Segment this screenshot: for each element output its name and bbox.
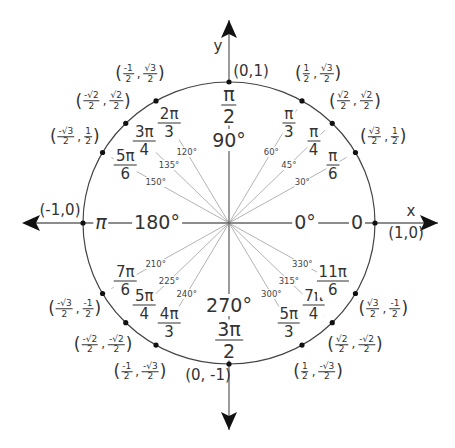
coord-label-210: (-√32,-12) bbox=[48, 299, 101, 319]
degree-180: 180° bbox=[132, 211, 182, 233]
radian-label-150: 5π6 bbox=[114, 149, 137, 182]
radian-label-300: 5π3 bbox=[278, 307, 301, 340]
degree-label-135: 135° bbox=[159, 160, 179, 170]
coord-270deg: (0, -1) bbox=[185, 366, 231, 384]
coord-label-300: (12,-√32) bbox=[293, 362, 343, 382]
point-240deg bbox=[153, 343, 158, 348]
point-300deg bbox=[299, 343, 304, 348]
coord-label-135: (-√22,√22) bbox=[75, 92, 130, 112]
coord-label-45: (√22,√22) bbox=[329, 92, 381, 112]
degree-label-300: 300° bbox=[261, 289, 281, 299]
degree-label-210: 210° bbox=[145, 259, 165, 269]
radian-pi-over-2: π 2 bbox=[221, 85, 236, 126]
degree-label-150: 150° bbox=[145, 177, 165, 187]
degree-90: 90° bbox=[210, 129, 248, 151]
coord-label-315: (√22,-√22) bbox=[327, 335, 382, 355]
coord-90deg: (0,1) bbox=[233, 62, 269, 80]
point-0deg bbox=[372, 220, 377, 225]
radian-label-225: 5π4 bbox=[133, 288, 156, 321]
coord-label-120: (-12,√32) bbox=[115, 64, 165, 84]
point-45deg bbox=[330, 121, 335, 126]
radian-pi: π bbox=[93, 211, 108, 233]
point-180deg bbox=[80, 220, 85, 225]
point-60deg bbox=[299, 98, 304, 103]
unit-circle-diagram: x y (1,0) (0,1) (-1,0) (0, -1) 0° 90° 18… bbox=[0, 0, 455, 448]
degree-0: 0° bbox=[292, 211, 318, 233]
degree-label-315: 315° bbox=[279, 276, 299, 286]
degree-label-45: 45° bbox=[281, 160, 296, 170]
coord-180deg: (-1,0) bbox=[40, 201, 81, 219]
degree-label-60: 60° bbox=[264, 147, 279, 157]
point-135deg bbox=[123, 121, 128, 126]
radian-label-240: 4π3 bbox=[158, 307, 181, 340]
y-axis-label: y bbox=[214, 37, 223, 55]
degree-label-120: 120° bbox=[176, 147, 196, 157]
point-330deg bbox=[353, 291, 358, 296]
point-225deg bbox=[123, 320, 128, 325]
degree-label-240: 240° bbox=[176, 289, 196, 299]
point-30deg bbox=[353, 150, 358, 155]
point-150deg bbox=[100, 150, 105, 155]
radian-label-45: π4 bbox=[307, 125, 320, 158]
coord-label-30: (√32,12) bbox=[360, 127, 406, 147]
coord-label-240: (-12,-√32) bbox=[114, 362, 167, 382]
radian-label-120: 2π3 bbox=[158, 106, 181, 139]
point-315deg bbox=[330, 320, 335, 325]
radian-0: 0 bbox=[349, 211, 365, 233]
coord-label-150: (-√32,12) bbox=[50, 127, 100, 147]
radian-3pi-over-2: 3π 2 bbox=[215, 320, 243, 361]
degree-270: 270° bbox=[204, 294, 254, 316]
x-axis-label: x bbox=[407, 202, 416, 220]
degree-label-30: 30° bbox=[295, 177, 310, 187]
point-210deg bbox=[100, 291, 105, 296]
coord-0deg: (1,0) bbox=[388, 224, 424, 242]
radian-label-30: π6 bbox=[326, 149, 339, 182]
coord-label-60: (12,√32) bbox=[295, 64, 341, 84]
point-120deg bbox=[153, 98, 158, 103]
degree-label-330: 330° bbox=[292, 259, 312, 269]
coord-label-330: (√32,-12) bbox=[358, 299, 408, 319]
coord-label-225: (-√22,-√22) bbox=[74, 335, 133, 355]
radian-label-330: 11π6 bbox=[317, 264, 349, 297]
degree-label-225: 225° bbox=[159, 276, 179, 286]
radian-label-60: π3 bbox=[282, 106, 295, 139]
